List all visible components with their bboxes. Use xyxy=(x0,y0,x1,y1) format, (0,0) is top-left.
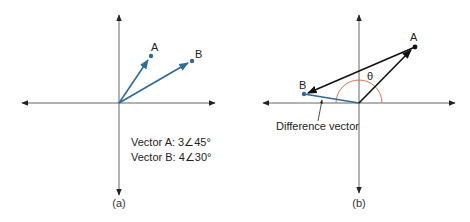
vector-diagram: A B Vector A: 3∠45° Vector B: 4∠30° (a) … xyxy=(0,0,470,222)
point-b-b xyxy=(302,92,306,96)
point-a xyxy=(149,54,153,58)
difference-vector-label: Difference vector xyxy=(276,120,359,132)
point-b-label: B xyxy=(195,48,202,60)
caption-a: (a) xyxy=(112,197,125,209)
angle-theta-label: θ xyxy=(367,70,373,82)
point-b-label-b: B xyxy=(299,79,306,91)
point-a-label: A xyxy=(151,41,159,53)
difference-vector xyxy=(304,94,359,103)
vector-b-arrow xyxy=(119,63,188,103)
vector-a-arrow xyxy=(119,60,148,103)
point-a-label-b: A xyxy=(410,31,418,43)
legend-vector-b: Vector B: 4∠30° xyxy=(131,151,211,163)
caption-b: (b) xyxy=(352,197,365,209)
point-b xyxy=(190,59,194,63)
panel-a: A B Vector A: 3∠45° Vector B: 4∠30° (a) xyxy=(22,15,215,209)
legend-vector-a: Vector A: 3∠45° xyxy=(131,136,211,148)
a-to-b-arrow xyxy=(308,47,415,93)
panel-b: θ B A Difference vector (b) xyxy=(263,15,455,209)
